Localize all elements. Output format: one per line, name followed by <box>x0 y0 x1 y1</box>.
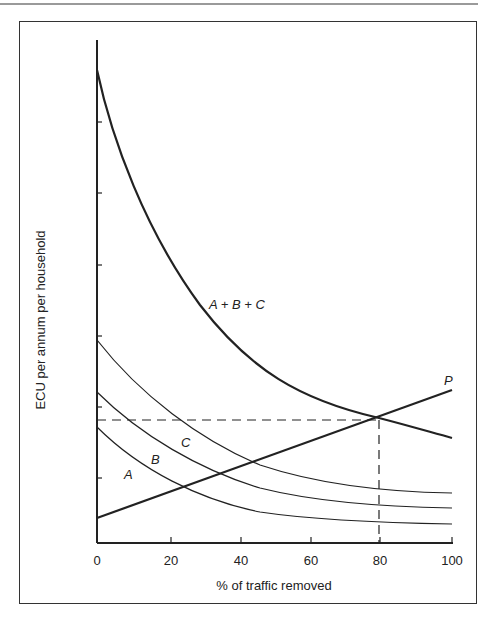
label-a: A <box>124 467 133 482</box>
x-tick-label: 20 <box>164 553 178 568</box>
x-tick-label: 60 <box>304 553 318 568</box>
label-b: B <box>151 452 160 467</box>
curve-a <box>97 427 452 524</box>
label-abc: A + B + C <box>209 297 265 312</box>
label-c: C <box>181 435 190 450</box>
x-axis-label: % of traffic removed <box>216 578 331 593</box>
label-p: P <box>444 373 453 388</box>
curve-abc <box>97 70 452 438</box>
x-tick-label: 100 <box>441 553 463 568</box>
y-axis-label: ECU per annum per household <box>33 230 48 409</box>
curve-c <box>97 340 452 493</box>
x-tick-label: 80 <box>373 553 387 568</box>
x-tick-label: 0 <box>93 553 100 568</box>
x-tick-label: 40 <box>234 553 248 568</box>
